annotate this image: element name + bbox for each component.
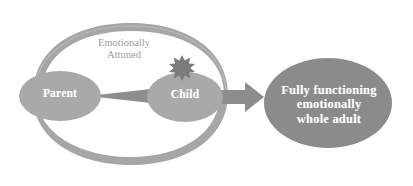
diagram-graphics [0, 0, 413, 186]
child-node-shape [147, 72, 223, 122]
adult-node-shape [264, 58, 392, 148]
parent-node-shape [19, 71, 101, 121]
diagram-canvas: Parent Child Fully functioning emotional… [0, 0, 413, 186]
